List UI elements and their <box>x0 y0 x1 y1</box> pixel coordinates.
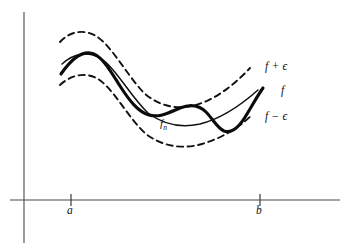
label-f-sub-n: fn <box>160 118 167 132</box>
axes-group <box>10 12 340 243</box>
label-f-sub-n-subscript: n <box>163 123 167 132</box>
uniform-convergence-figure: f + ϵ f f − ϵ fn a b <box>0 0 355 250</box>
axis-label-a: a <box>67 205 73 217</box>
label-f-plus-epsilon: f + ϵ <box>265 61 287 73</box>
curve-upper-envelope <box>60 32 250 107</box>
label-f: f <box>281 85 284 97</box>
figure-canvas <box>0 0 355 250</box>
axis-label-b: b <box>256 205 262 217</box>
curve-lower-envelope <box>60 75 252 147</box>
label-f-minus-epsilon: f − ϵ <box>265 111 287 123</box>
